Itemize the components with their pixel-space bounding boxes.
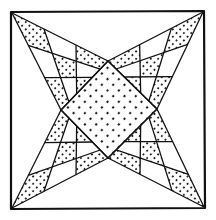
quilt-block-figure (0, 0, 216, 220)
quilt-block-drawing (0, 0, 216, 220)
